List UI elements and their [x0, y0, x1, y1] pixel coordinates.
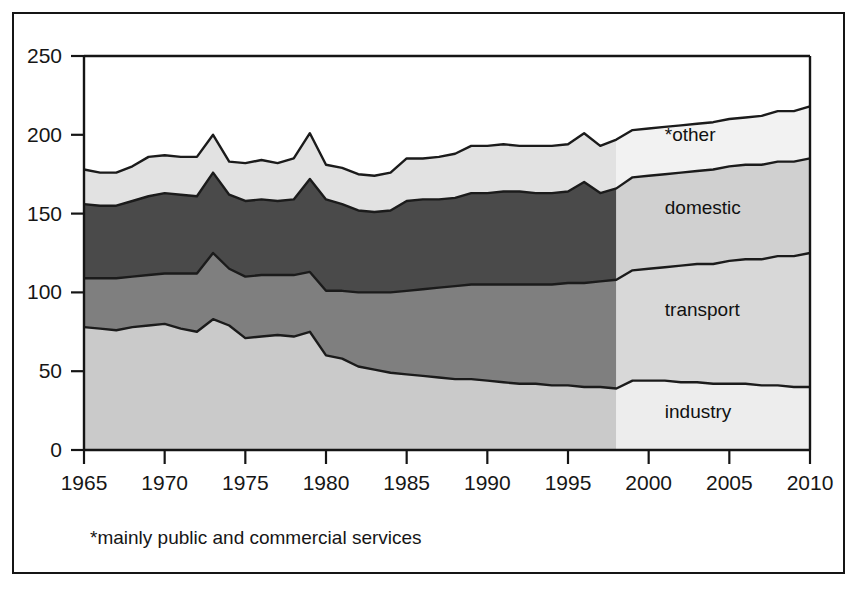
y-tick-label: 250: [27, 44, 62, 67]
y-tick-label: 100: [27, 280, 62, 303]
band-label-industry: industry: [665, 401, 732, 422]
y-tick-label: 50: [39, 359, 62, 382]
figure-page: 0501001502002501965197019751980198519901…: [0, 0, 861, 589]
y-tick-label: 150: [27, 202, 62, 225]
x-tick-label: 1985: [383, 471, 430, 494]
footnote-text: *mainly public and commercial services: [90, 527, 422, 548]
x-tick-label: 2005: [706, 471, 753, 494]
y-tick-label: 0: [50, 438, 62, 461]
band-label-other: *other: [665, 124, 716, 145]
x-tick-label: 2000: [625, 471, 672, 494]
x-tick-label: 1970: [141, 471, 188, 494]
x-tick-label: 1965: [61, 471, 108, 494]
x-tick-label: 1975: [222, 471, 269, 494]
band-label-transport: transport: [665, 299, 741, 320]
x-tick-label: 1995: [545, 471, 592, 494]
y-tick-label: 200: [27, 123, 62, 146]
stacked-area-chart: 0501001502002501965197019751980198519901…: [14, 14, 843, 572]
y-axis-ticks: 050100150200250: [27, 44, 84, 461]
figure-frame: 0501001502002501965197019751980198519901…: [12, 12, 845, 574]
x-tick-label: 1980: [303, 471, 350, 494]
x-tick-label: 2010: [787, 471, 834, 494]
x-axis-ticks: 1965197019751980198519901995200020052010: [61, 450, 834, 494]
band-label-domestic: domestic: [665, 197, 741, 218]
x-tick-label: 1990: [464, 471, 511, 494]
